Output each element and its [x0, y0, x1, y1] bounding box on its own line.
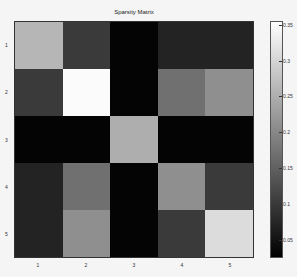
colorbar-tick-label: 0.15 — [283, 165, 293, 171]
heatmap-cell-r1-c3 — [110, 22, 158, 69]
heatmap-cell-r2-c1 — [15, 69, 63, 116]
colorbar-tick-label: 0.05 — [283, 237, 293, 243]
heatmap-cell-r4-c3 — [110, 163, 158, 210]
colorbar-tick-label: 0.3 — [283, 58, 290, 64]
heatmap-cell-r1-c5 — [205, 22, 253, 69]
heatmap-cell-r1-c4 — [158, 22, 206, 69]
heatmap-cell-r4-c1 — [15, 163, 63, 210]
x-tick-label: 2 — [81, 262, 91, 268]
heatmap-cell-r3-c2 — [63, 116, 111, 163]
heatmap-cell-r5-c4 — [158, 210, 206, 257]
y-tick-label: 1 — [5, 42, 8, 48]
y-tick-label: 5 — [5, 231, 8, 237]
heatmap-cell-r3-c1 — [15, 116, 63, 163]
heatmap-cell-r2-c4 — [158, 69, 206, 116]
chart-title: Sparsity Matrix — [14, 9, 254, 15]
heatmap-cell-r5-c2 — [63, 210, 111, 257]
colorbar-tick-label: 0.1 — [283, 201, 290, 207]
heatmap-cell-r3-c3 — [110, 116, 158, 163]
heatmap-plot-area — [14, 21, 254, 258]
x-tick-label: 5 — [225, 262, 235, 268]
colorbar-tick-label: 0.25 — [283, 93, 293, 99]
heatmap-cell-r3-c5 — [205, 116, 253, 163]
heatmap-cell-r4-c2 — [63, 163, 111, 210]
colorbar-tick-label: 0.2 — [283, 129, 290, 135]
heatmap-cell-r1-c2 — [63, 22, 111, 69]
colorbar — [270, 21, 283, 258]
heatmap-cell-r5-c3 — [110, 210, 158, 257]
y-tick-label: 3 — [5, 137, 8, 143]
heatmap-cell-r4-c4 — [158, 163, 206, 210]
y-tick-label: 2 — [5, 89, 8, 95]
heatmap-cell-r5-c5 — [205, 210, 253, 257]
colorbar-tick-label: 0.35 — [283, 22, 293, 28]
heatmap-cell-r2-c5 — [205, 69, 253, 116]
heatmap-cell-r5-c1 — [15, 210, 63, 257]
x-tick-label: 4 — [177, 262, 187, 268]
y-tick-label: 4 — [5, 184, 8, 190]
x-tick-label: 3 — [129, 262, 139, 268]
heatmap-cell-r2-c2 — [63, 69, 111, 116]
heatmap-cell-r2-c3 — [110, 69, 158, 116]
heatmap-cell-r3-c4 — [158, 116, 206, 163]
x-tick-label: 1 — [33, 262, 43, 268]
heatmap-cell-r4-c5 — [205, 163, 253, 210]
heatmap-cell-r1-c1 — [15, 22, 63, 69]
